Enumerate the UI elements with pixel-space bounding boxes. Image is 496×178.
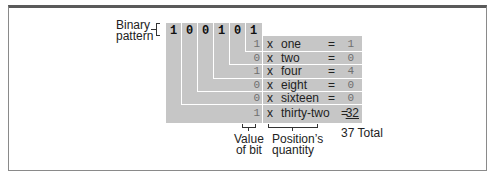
row-bit-value: 1 (248, 38, 260, 50)
row-place-name: two (281, 52, 300, 64)
binary-bracket-icon (156, 23, 160, 36)
row-place-name: eight (281, 79, 307, 91)
binary-pattern-label: Binary pattern (116, 20, 153, 42)
row-bit-value: 0 (248, 52, 260, 64)
value-column-divider (262, 36, 263, 123)
bit-digit: 0 (182, 26, 197, 36)
bit-digit: 1 (246, 26, 261, 36)
value-bracket-tick-icon (248, 127, 249, 131)
row-bit-value: 0 (248, 79, 260, 91)
total-label: 37 Total (341, 127, 383, 139)
row-times: x (267, 38, 273, 50)
row-result: 0 (334, 52, 354, 64)
position-label-line2: quantity (272, 145, 323, 156)
binary-label-line2: pattern (116, 31, 153, 42)
bit-digit: 0 (230, 26, 245, 36)
value-label-line2: of bit (234, 145, 264, 156)
row-place-name: one (281, 38, 301, 50)
positions-quantity-label: Position’s quantity (272, 134, 323, 156)
row-result: 1 (334, 38, 354, 50)
row-bit-value: 0 (248, 92, 260, 104)
bit-digit: 1 (214, 26, 229, 36)
row-result: 0 (334, 92, 354, 104)
bit-digit: 0 (198, 26, 213, 36)
row-result: 4 (334, 65, 354, 77)
row-result: 0 (334, 79, 354, 91)
row-times: x (267, 107, 273, 119)
position-bracket-tick-icon (292, 127, 293, 131)
row-place-name: sixteen (281, 92, 319, 104)
value-bracket-icon (242, 124, 256, 128)
row-times: x (267, 65, 273, 77)
row-times: x (267, 79, 273, 91)
bit-digit: 1 (166, 26, 181, 36)
row-result: 32 (339, 107, 359, 119)
row-place-name: thirty-two (281, 107, 330, 119)
block-top-notch (262, 23, 362, 36)
row-bit-value: 1 (248, 65, 260, 77)
value-of-bit-label: Value of bit (234, 134, 264, 156)
row-times: x (267, 92, 273, 104)
position-bracket-icon (268, 124, 318, 128)
row-bit-value: 1 (248, 107, 260, 119)
row-place-name: four (281, 65, 302, 77)
row-times: x (267, 52, 273, 64)
